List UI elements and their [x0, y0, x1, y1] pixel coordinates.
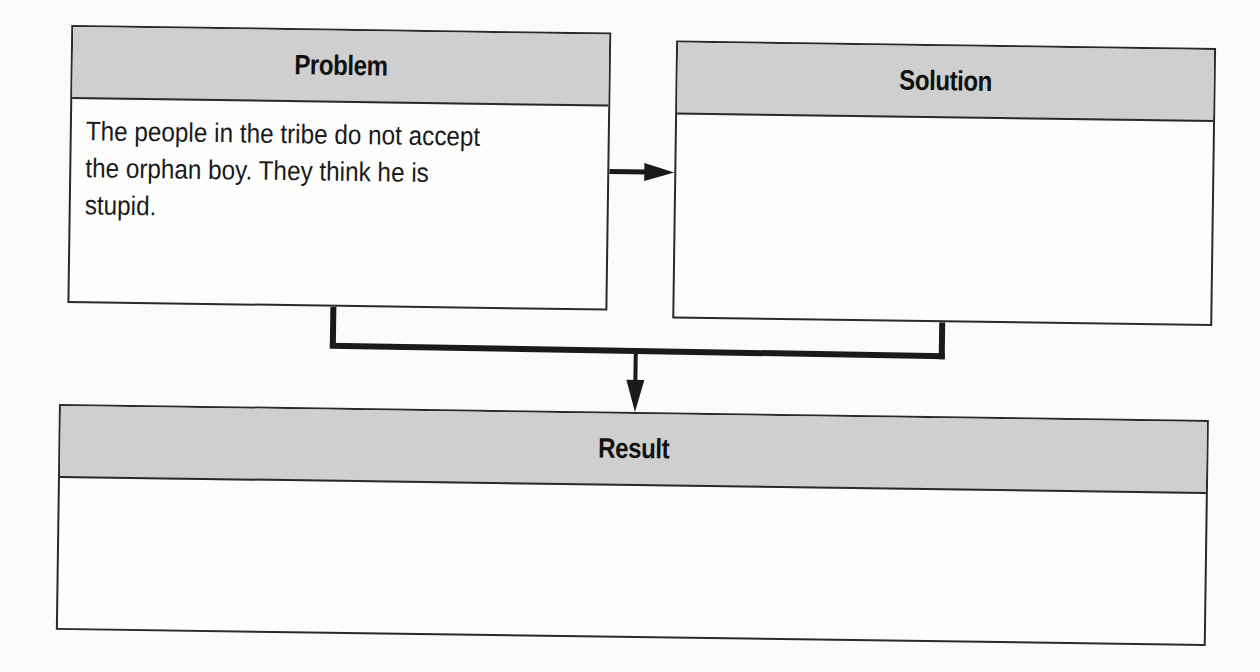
solution-content-area[interactable] — [676, 114, 1213, 172]
problem-content-area[interactable]: The people in the tribe do not accept th… — [71, 99, 609, 231]
problem-text: The people in the tribe do not accept th… — [85, 113, 626, 232]
diagram-stage: Problem The people in the tribe do not a… — [0, 0, 1260, 672]
result-text — [73, 519, 613, 527]
problem-header: Problem — [72, 27, 609, 106]
problem-box: Problem The people in the tribe do not a… — [67, 25, 611, 311]
problem-title: Problem — [294, 49, 388, 82]
result-box: Result — [56, 404, 1209, 646]
result-title: Result — [598, 432, 669, 465]
solution-text — [691, 156, 1231, 164]
solution-box: Solution — [672, 40, 1216, 326]
bracket-to-result — [329, 307, 945, 417]
solution-title: Solution — [899, 65, 992, 98]
solution-header: Solution — [677, 43, 1214, 122]
